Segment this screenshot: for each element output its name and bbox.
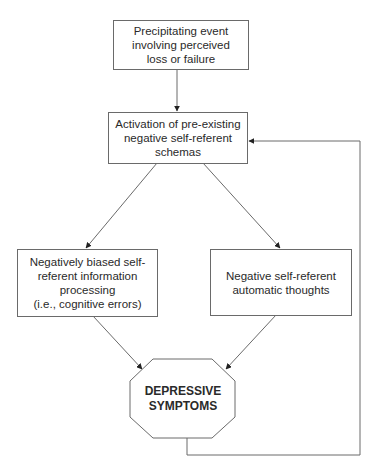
node-label: Activation of pre-existing negative self… [115, 117, 240, 159]
node-label: Precipitating event involving perceived … [132, 24, 230, 66]
node-label: DEPRESSIVE SYMPTOMS [145, 384, 222, 414]
arrow-schemas-to-thoughts [203, 163, 280, 248]
node-automatic-thoughts: Negative self-referent automatic thought… [210, 249, 352, 316]
node-depressive-symptoms: DEPRESSIVE SYMPTOMS [130, 359, 236, 439]
node-schema-activation: Activation of pre-existing negative self… [108, 112, 248, 164]
node-label: Negative self-referent automatic thought… [226, 269, 336, 297]
node-biased-processing: Negatively biased self- referent informa… [17, 249, 158, 317]
node-precipitating-event: Precipitating event involving perceived … [113, 20, 249, 70]
arrow-schemas-to-processing [86, 163, 157, 248]
node-label: Negatively biased self- referent informa… [30, 255, 146, 311]
